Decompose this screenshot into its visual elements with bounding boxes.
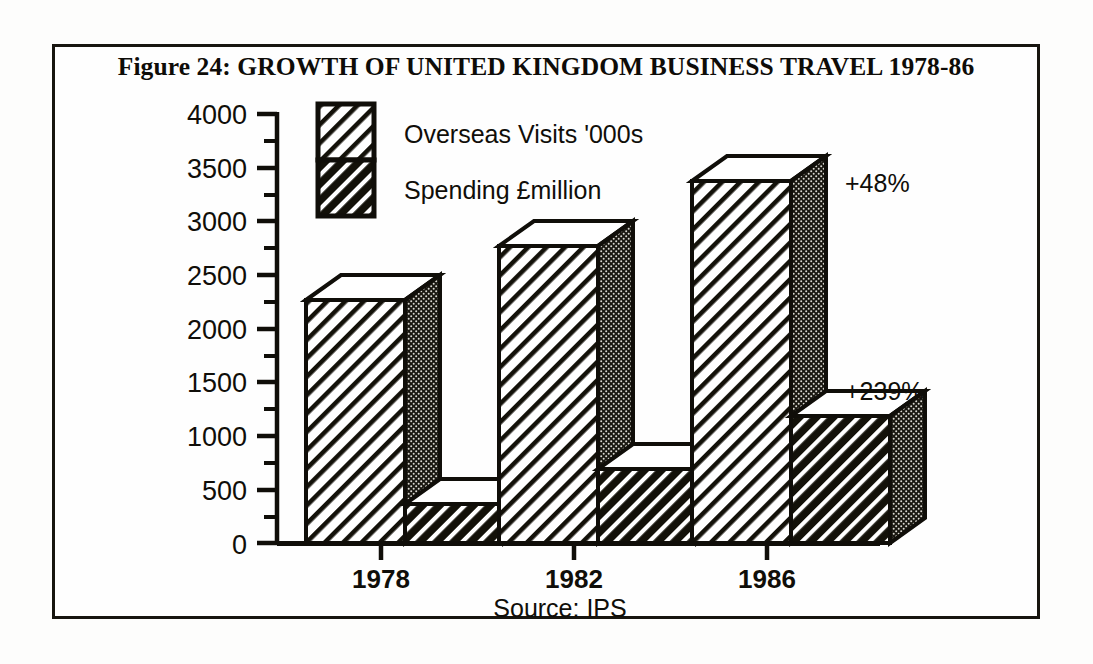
figure-border [52, 44, 1040, 619]
figure-page: Figure 24: GROWTH OF UNITED KINGDOM BUSI… [0, 0, 1093, 664]
figure-title: Figure 24: GROWTH OF UNITED KINGDOM BUSI… [66, 52, 1026, 82]
